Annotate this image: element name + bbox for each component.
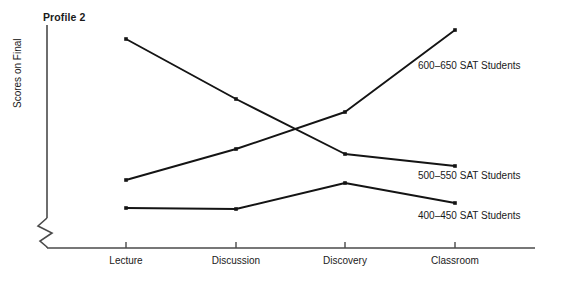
x-tick-label-discovery: Discovery [323,255,367,266]
series-label-400-450: 400–450 SAT Students [418,210,521,221]
x-tick-label-classroom: Classroom [431,255,479,266]
data-point-1-2 [343,152,347,156]
data-point-2-1 [234,207,238,211]
data-point-2-3 [453,201,457,205]
data-point-0-1 [234,147,238,151]
chart-container: Profile 2 Scores on Final Lecture Discus… [0,0,564,289]
data-point-0-0 [124,178,128,182]
series-line-1 [126,39,455,166]
series-group [124,28,457,211]
data-point-2-2 [343,181,347,185]
chart-title: Profile 2 [43,11,85,23]
data-point-0-2 [343,110,347,114]
series-line-0 [126,30,455,180]
y-axis-label: Scores on Final [12,0,23,108]
series-label-600-650: 600–650 SAT Students [418,60,521,71]
data-point-2-0 [124,206,128,210]
x-tick-label-lecture: Lecture [109,255,142,266]
data-point-0-3 [453,28,457,32]
series-label-500-550: 500–550 SAT Students [418,170,521,181]
y-axis-break-icon [38,218,52,248]
data-point-1-0 [124,37,128,41]
x-tick-label-discussion: Discussion [212,255,260,266]
series-line-2 [126,183,455,209]
data-point-1-3 [453,164,457,168]
data-point-1-1 [234,97,238,101]
chart-plot-area [0,0,564,289]
